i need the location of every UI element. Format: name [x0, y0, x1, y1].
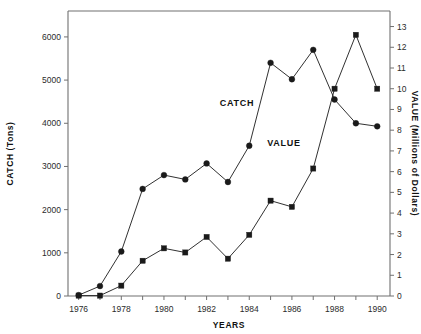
data-point-value-1985 — [268, 198, 273, 203]
right-axis-title: VALUE (Millions of Dollars) — [410, 91, 420, 217]
right-axis-tick-label: 4 — [397, 208, 402, 218]
x-axis-tick-label: 1978 — [112, 304, 131, 314]
data-point-value-1984 — [247, 232, 252, 237]
right-axis-tick-label: 8 — [397, 125, 402, 135]
data-point-catch-1983 — [225, 179, 231, 185]
x-axis-tick-label: 1976 — [69, 304, 88, 314]
right-axis-tick-label: 6 — [397, 167, 402, 177]
left-axis-tick-label: 3000 — [42, 161, 61, 171]
data-point-value-1976 — [76, 293, 81, 298]
labels-layer: CATCH (Tons)VALUE (Millions of Dollars)Y… — [5, 91, 420, 330]
left-axis-tick-label: 0 — [56, 291, 61, 301]
data-point-catch-1980 — [161, 172, 167, 178]
catch-series-annotation: CATCH — [220, 98, 254, 108]
data-point-value-1987 — [311, 166, 316, 171]
left-axis-tick-label: 5000 — [42, 75, 61, 85]
data-point-value-1990 — [375, 86, 380, 91]
line-chart-svg: 0100020003000400050006000012345678910111… — [0, 0, 421, 334]
series-layer — [76, 32, 380, 298]
chart-container: 0100020003000400050006000012345678910111… — [0, 0, 421, 334]
left-axis-tick-label: 1000 — [42, 248, 61, 258]
data-point-catch-1977 — [97, 283, 103, 289]
x-axis-tick-label: 1984 — [240, 304, 259, 314]
data-point-catch-1982 — [204, 161, 210, 167]
left-axis-title: CATCH (Tons) — [5, 121, 15, 185]
data-point-catch-1985 — [268, 60, 274, 66]
data-point-value-1979 — [140, 258, 145, 263]
x-axis-tick-label: 1988 — [325, 304, 344, 314]
right-axis-tick-label: 0 — [397, 291, 402, 301]
right-axis-tick-label: 10 — [397, 84, 407, 94]
data-point-value-1986 — [289, 204, 294, 209]
left-axis-tick-label: 2000 — [42, 205, 61, 215]
data-point-catch-1989 — [353, 120, 359, 126]
data-point-value-1980 — [161, 246, 166, 251]
x-axis-tick-label: 1982 — [197, 304, 216, 314]
right-axis-tick-label: 5 — [397, 187, 402, 197]
data-point-catch-1987 — [310, 47, 316, 53]
left-axis-tick-label: 6000 — [42, 32, 61, 42]
right-axis-tick-label: 7 — [397, 146, 402, 156]
data-point-value-1978 — [119, 283, 124, 288]
axes-layer: 0100020003000400050006000012345678910111… — [42, 11, 407, 314]
x-axis-tick-label: 1990 — [368, 304, 387, 314]
right-axis-tick-label: 3 — [397, 229, 402, 239]
right-axis-tick-label: 1 — [397, 270, 402, 280]
right-axis-tick-label: 2 — [397, 250, 402, 260]
right-axis-tick-label: 9 — [397, 104, 402, 114]
value-series-annotation: VALUE — [267, 138, 300, 148]
data-point-value-1977 — [97, 293, 102, 298]
x-axis-tick-label: 1986 — [282, 304, 301, 314]
x-axis-title: YEARS — [213, 320, 245, 330]
right-axis-tick-label: 12 — [397, 42, 407, 52]
data-point-catch-1986 — [289, 76, 295, 82]
x-axis-tick-label: 1980 — [154, 304, 173, 314]
data-point-catch-1984 — [246, 143, 252, 149]
data-point-catch-1978 — [118, 249, 124, 255]
data-point-value-1981 — [183, 250, 188, 255]
data-point-catch-1979 — [140, 186, 146, 192]
data-point-catch-1981 — [182, 177, 188, 183]
data-point-value-1988 — [332, 86, 337, 91]
right-axis-tick-label: 11 — [397, 63, 406, 73]
right-axis-tick-label: 13 — [397, 22, 407, 32]
left-axis-tick-label: 4000 — [42, 118, 61, 128]
data-point-value-1989 — [353, 32, 358, 37]
data-point-value-1982 — [204, 234, 209, 239]
data-point-value-1983 — [225, 256, 230, 261]
data-point-catch-1990 — [374, 123, 380, 129]
